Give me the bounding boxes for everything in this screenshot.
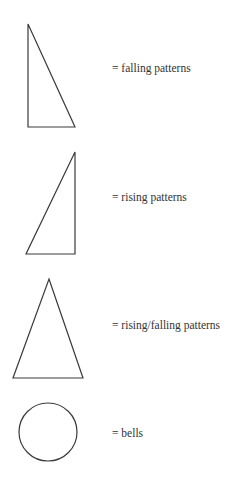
rising-pattern-triangle-icon (26, 152, 75, 254)
bells-label: = bells (112, 426, 143, 440)
rising-falling-pattern-triangle-icon (13, 279, 83, 378)
falling-patterns-label: = falling patterns (112, 61, 191, 75)
falling-pattern-triangle-icon (28, 24, 75, 127)
bells-circle-icon (19, 403, 77, 461)
rising-patterns-label: = rising patterns (112, 190, 187, 204)
rising-falling-patterns-label: = rising/falling patterns (112, 318, 220, 332)
